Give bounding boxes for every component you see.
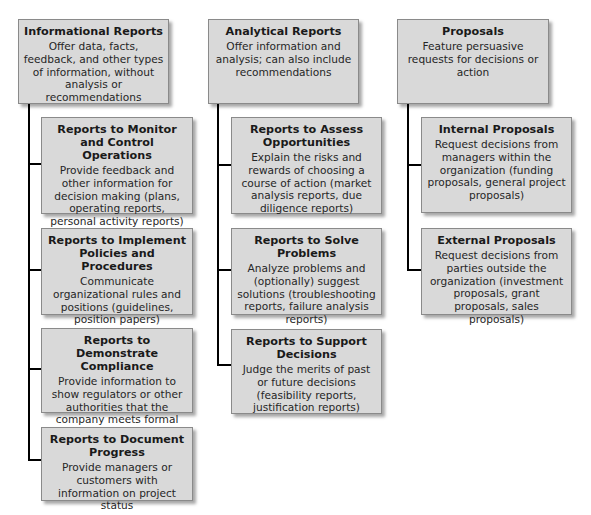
assess-opportunities-reports-box: Reports to Assess Opportunities Explain … <box>231 117 382 214</box>
box-description: Offer data, facts, feedback, and other t… <box>23 40 164 104</box>
box-description: Request decisions from managers within t… <box>426 138 567 202</box>
box-description: Feature persuasive requests for decision… <box>402 40 544 78</box>
analytical-reports-box: Analytical Reports Offer information and… <box>208 19 359 104</box>
box-title: Reports to Assess Opportunities <box>236 123 377 149</box>
demonstrate-compliance-reports-box: Reports to Demonstrate Compliance Provid… <box>41 328 193 413</box>
monitor-control-reports-box: Reports to Monitor and Control Operation… <box>41 117 193 214</box>
connector-monitor <box>28 163 42 165</box>
connector-progress <box>28 459 42 461</box>
box-description: Provide managers or customers with infor… <box>46 461 188 512</box>
external-proposals-box: External Proposals Request decisions fro… <box>421 228 572 315</box>
implement-policies-reports-box: Reports to Implement Policies and Proced… <box>41 228 193 315</box>
connector-assess <box>217 164 232 166</box>
support-decisions-reports-box: Reports to Support Decisions Judge the m… <box>231 329 382 414</box>
box-description: Explain the risks and rewards of choosin… <box>236 151 377 215</box>
box-title: Internal Proposals <box>426 123 567 136</box>
connector-solve <box>217 269 232 271</box>
box-title: Reports to Solve Problems <box>236 234 377 260</box>
proposals-connector-trunk <box>407 103 409 271</box>
connector-compliance <box>28 368 42 370</box>
box-title: Proposals <box>402 25 544 38</box>
box-title: Reports to Demonstrate Compliance <box>46 334 188 373</box>
connector-external <box>407 269 422 271</box>
box-description: Provide feedback and other information f… <box>46 164 188 228</box>
solve-problems-reports-box: Reports to Solve Problems Analyze proble… <box>231 228 382 315</box>
informational-connector-trunk <box>28 103 30 461</box>
document-progress-reports-box: Reports to Document Progress Provide man… <box>41 427 193 501</box>
box-description: Judge the merits of past or future decis… <box>236 363 377 414</box>
box-title: Reports to Implement Policies and Proced… <box>46 234 188 273</box>
informational-reports-box: Informational Reports Offer data, facts,… <box>18 19 169 104</box>
box-title: Reports to Monitor and Control Operation… <box>46 123 188 162</box>
connector-support <box>217 364 232 366</box>
box-description: Offer information and analysis; can also… <box>213 40 354 78</box>
box-description: Analyze problems and (optionally) sugges… <box>236 262 377 326</box>
analytical-connector-trunk <box>217 103 219 366</box>
box-title: Informational Reports <box>23 25 164 38</box>
box-description: Communicate organizational rules and pos… <box>46 275 188 326</box>
box-title: External Proposals <box>426 234 567 247</box>
proposals-box: Proposals Feature persuasive requests fo… <box>397 19 549 104</box>
box-title: Analytical Reports <box>213 25 354 38</box>
box-title: Reports to Support Decisions <box>236 335 377 361</box>
internal-proposals-box: Internal Proposals Request decisions fro… <box>421 117 572 213</box>
connector-implement <box>28 269 42 271</box>
box-description: Request decisions from parties outside t… <box>426 249 567 326</box>
connector-internal <box>407 164 422 166</box>
box-title: Reports to Document Progress <box>46 433 188 459</box>
